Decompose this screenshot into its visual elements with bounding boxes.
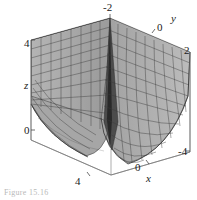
- tick-label-z-0: 0: [24, 125, 30, 136]
- tick-label-x-neg4: -4: [178, 146, 187, 157]
- surface-plot-canvas: [0, 0, 197, 200]
- axis-label-y: y: [171, 13, 176, 24]
- tick-label-x-4: 4: [75, 176, 81, 187]
- tick-mark-x-4: [87, 172, 90, 176]
- tick-label-y-neg2: -2: [103, 2, 112, 13]
- tick-mark-x-0: [146, 160, 149, 164]
- tick-mark-y-0: [152, 29, 155, 33]
- tick-label-y-0: 0: [157, 22, 163, 33]
- figure-3d-surface-plot: -2 0 2 4 0 4 0 -4 y z x Figure 15.16: [0, 0, 197, 200]
- tick-label-x-0: 0: [135, 162, 141, 173]
- figure-caption: Figure 15.16: [4, 188, 49, 197]
- axis-label-z: z: [24, 80, 28, 91]
- tick-label-y-2: 2: [184, 45, 190, 56]
- axis-label-x: x: [146, 173, 151, 184]
- tick-label-z-4: 4: [24, 38, 30, 49]
